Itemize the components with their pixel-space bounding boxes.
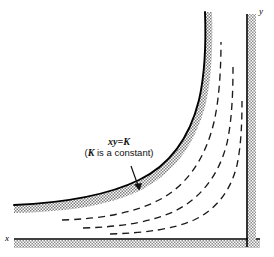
- annotation-note-suffix: is a constant): [94, 147, 153, 158]
- annotation-note: (K is a constant): [58, 147, 180, 159]
- y-axis-label: y: [258, 6, 263, 16]
- dashed-hyperbola-1: [62, 42, 221, 220]
- figure-canvas: x y: [0, 0, 274, 257]
- horizontal-axis: [14, 239, 260, 248]
- annotation-equation: xy=K: [58, 136, 180, 147]
- hyperbola-figure: x y xy=K (K is a constant): [0, 0, 274, 257]
- solid-hyperbola-curve: [14, 12, 205, 205]
- x-axis-label: x: [4, 233, 9, 243]
- solid-curve-shaded-band: [14, 12, 212, 213]
- curve-annotation: xy=K (K is a constant): [58, 136, 180, 159]
- dashed-hyperbola-3: [110, 101, 242, 234]
- vertical-axis: [247, 14, 256, 248]
